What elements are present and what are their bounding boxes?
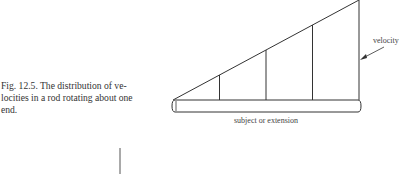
rod-label: subject or extension [234, 116, 298, 125]
velocity-label: velocity [373, 36, 399, 45]
velocity-vectors [220, 0, 360, 100]
rod-velocity-diagram: velocity subject or extension [0, 0, 401, 174]
velocity-pointer-arrowhead [360, 54, 367, 60]
rod [172, 100, 361, 112]
